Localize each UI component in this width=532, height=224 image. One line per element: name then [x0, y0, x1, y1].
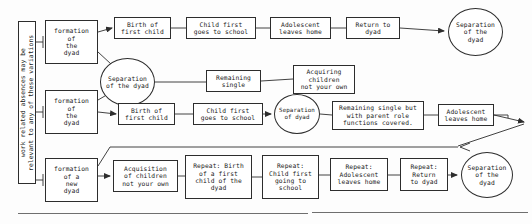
node-separation-of-dyad-3[interactable]: Separation of dyad [274, 94, 320, 134]
edge-remaining1-acquiring1 [261, 79, 293, 81]
edge-formation2-birth2 [98, 112, 116, 114]
edge-adolescent2-loop-arrow [494, 115, 524, 122]
node-formation-of-the-dyad-2[interactable]: formation of the dyad [45, 90, 98, 134]
flowchart-diagram: work related absences may be relevant to… [0, 0, 532, 224]
node-adolescent-leaves-home-2[interactable]: Adolescent leaves home [438, 104, 494, 126]
node-separation-of-the-dyad-1[interactable]: Separation of the dyad [448, 8, 503, 56]
edge-return1-separation1 [400, 28, 444, 31]
page-rule-left [18, 213, 308, 214]
node-child-first-goes-to-school-2[interactable]: Child first goes to school [193, 103, 263, 125]
node-acquisition-of-children-not-your-own[interactable]: Acquisition of children not your own [113, 160, 178, 192]
edge-loop-return-arrowhead [460, 143, 470, 151]
node-birth-of-first-child-2[interactable]: Birth of first child [118, 103, 175, 125]
node-repeat-child-first-going-to-school[interactable]: Repeat: Child first going to school [262, 155, 319, 199]
edge-loop-return-a [458, 124, 524, 146]
node-remaining-single-parent-role[interactable]: Remaining single but with parent role fu… [332, 101, 424, 130]
node-repeat-adolescent-leaves-home[interactable]: Repeat: Adolescent leaves home [330, 158, 388, 191]
node-remaining-single[interactable]: Remaining single [206, 70, 261, 92]
node-return-to-dyad-1[interactable]: Return to dyad [346, 17, 400, 39]
node-formation-of-the-dyad-1[interactable]: formation of the dyad [45, 20, 98, 64]
side-label-work-absences: work related absences may be relevant to… [18, 21, 36, 184]
node-adolescent-leaves-home-1[interactable]: Adolescent leaves home [270, 17, 331, 39]
node-separation-of-the-dyad-2[interactable]: Separation of the dyad [100, 58, 155, 106]
node-acquiring-children-not-your-own[interactable]: Acquiring children not your own [293, 65, 355, 94]
edge-separation3-remaining2 [320, 114, 332, 115]
edge-formation1-birth1 [98, 28, 112, 32]
node-repeat-return-to-dyad[interactable]: Repeat: Return to dyad [400, 158, 448, 191]
page-rule-right [312, 212, 528, 213]
node-birth-of-first-child-1[interactable]: Birth of first child [114, 17, 171, 39]
node-separation-of-the-dyad-4[interactable]: Separation of the dyad [461, 152, 513, 198]
node-repeat-birth-of-first-child[interactable]: Repeat: Birth of a first child of the dy… [185, 155, 252, 199]
node-child-first-goes-to-school-1[interactable]: Child first goes to school [186, 17, 256, 39]
node-formation-of-a-new-dyad[interactable]: formation of a new dyad [45, 158, 98, 202]
